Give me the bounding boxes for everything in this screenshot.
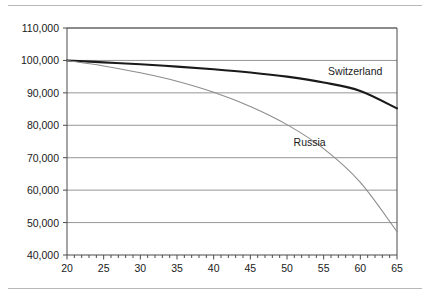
line-chart: 40,00050,00060,00070,00080,00090,000100,… — [0, 0, 430, 298]
series-line-russia — [67, 60, 397, 231]
y-axis-label: 80,000 — [0, 120, 59, 131]
chart-page: 40,00050,00060,00070,00080,00090,000100,… — [0, 0, 430, 298]
x-axis-label: 45 — [244, 263, 256, 274]
x-axis-label: 30 — [134, 263, 146, 274]
x-axis-label: 35 — [171, 263, 183, 274]
gridlines — [67, 28, 397, 223]
series-lines — [67, 60, 397, 231]
y-axis-label: 50,000 — [0, 217, 59, 228]
x-axis-label: 65 — [391, 263, 403, 274]
y-axis-label: 40,000 — [0, 250, 59, 261]
chart-canvas — [0, 0, 430, 298]
x-axis-label: 40 — [208, 263, 220, 274]
x-axis-label: 20 — [61, 263, 73, 274]
x-axis-label: 25 — [98, 263, 110, 274]
y-axis-label: 70,000 — [0, 152, 59, 163]
x-axis-label: 60 — [354, 263, 366, 274]
x-axis-label: 50 — [281, 263, 293, 274]
series-annotation-switzerland: Switzerland — [328, 66, 382, 77]
y-axis-label: 90,000 — [0, 88, 59, 99]
y-axis-label: 110,000 — [0, 23, 59, 34]
x-axis-label: 55 — [318, 263, 330, 274]
y-axis-label: 60,000 — [0, 185, 59, 196]
series-annotation-russia: Russia — [294, 137, 326, 148]
y-axis-label: 100,000 — [0, 55, 59, 66]
